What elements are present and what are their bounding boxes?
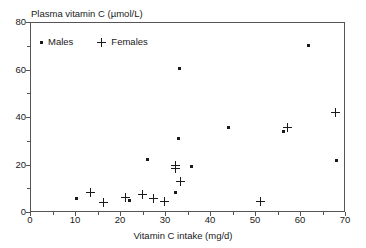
x-axis-minor-tick (53, 212, 54, 215)
x-axis-tick-label: 10 (62, 215, 88, 225)
y-axis-tick-label: 80 (4, 17, 26, 27)
data-point-females (256, 197, 265, 206)
data-point-males (190, 165, 193, 168)
chart-legend: Males Females (40, 36, 148, 48)
x-axis-minor-tick (278, 212, 279, 215)
data-point-males (75, 197, 78, 200)
x-axis-minor-tick (98, 212, 99, 215)
data-point-females (160, 197, 169, 206)
x-axis-tick-label: 20 (107, 215, 133, 225)
dot-marker-icon (40, 41, 43, 44)
x-axis-minor-tick (188, 212, 189, 215)
x-axis-tick-label: 0 (17, 215, 43, 225)
y-axis-minor-tick (27, 46, 30, 47)
legend-label-males: Males (48, 36, 73, 48)
x-axis-title: Vitamin C intake (mg/d) (0, 230, 366, 241)
x-axis-tick-label: 30 (152, 215, 178, 225)
legend-entry-females: Females (97, 36, 147, 48)
y-axis-tick (26, 22, 30, 23)
data-point-females (149, 194, 158, 203)
y-axis-minor-tick (27, 141, 30, 142)
data-point-females (121, 193, 130, 202)
y-axis-tick (26, 165, 30, 166)
y-axis-tick (26, 70, 30, 71)
y-axis-tick-label: 40 (4, 112, 26, 122)
data-point-females (138, 190, 147, 199)
legend-entry-males: Males (40, 36, 73, 48)
data-point-females (331, 108, 340, 117)
data-point-males (178, 67, 181, 70)
plus-marker-icon (97, 38, 106, 47)
plot-area (30, 22, 345, 212)
data-point-males (227, 126, 230, 129)
data-point-females (283, 123, 292, 132)
data-point-males (174, 191, 177, 194)
chart-title: Plasma vitamin C (µmol/L) (31, 8, 143, 19)
data-point-males (307, 44, 310, 47)
data-point-females (171, 164, 180, 173)
y-axis-minor-tick (27, 93, 30, 94)
y-axis-tick (26, 117, 30, 118)
x-axis-tick-label: 60 (287, 215, 313, 225)
data-point-females (99, 198, 108, 207)
data-point-males (177, 137, 180, 140)
x-axis-minor-tick (323, 212, 324, 215)
legend-label-females: Females (111, 36, 147, 48)
scatter-plot-figure: Plasma vitamin C (µmol/L) 02040608001020… (0, 0, 366, 248)
data-point-males (146, 158, 149, 161)
y-axis-tick-label: 60 (4, 65, 26, 75)
data-point-females (176, 177, 185, 186)
y-axis-minor-tick (27, 188, 30, 189)
data-point-males (335, 159, 338, 162)
y-axis-tick-label: 20 (4, 160, 26, 170)
x-axis-minor-tick (233, 212, 234, 215)
x-axis-tick-label: 70 (332, 215, 358, 225)
x-axis-tick-label: 40 (197, 215, 223, 225)
data-point-females (86, 188, 95, 197)
x-axis-minor-tick (143, 212, 144, 215)
x-axis-tick-label: 50 (242, 215, 268, 225)
